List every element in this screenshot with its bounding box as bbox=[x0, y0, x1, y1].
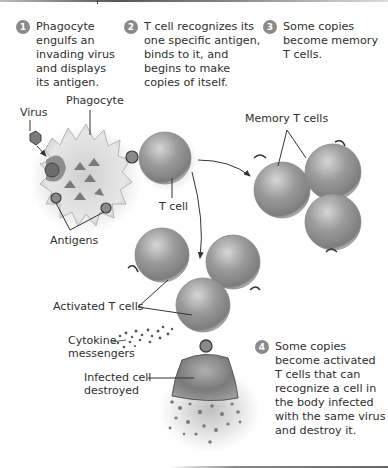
label-cytokine-messengers: Cytokine messengers bbox=[68, 334, 135, 360]
step-text: T cell recognizes its one specific antig… bbox=[144, 20, 260, 90]
step-3: 3 Some copies become memory T cells. bbox=[283, 20, 378, 62]
label-antigens: Antigens bbox=[50, 234, 98, 247]
activated-t-cells bbox=[128, 228, 260, 332]
infected-cell bbox=[160, 354, 260, 452]
label-memory-t-cells: Memory T cells bbox=[245, 112, 328, 125]
step-number-badge: 1 bbox=[16, 20, 30, 34]
step-number-badge: 2 bbox=[124, 20, 138, 34]
step-number-badge: 4 bbox=[255, 340, 269, 354]
step-number-badge: 3 bbox=[263, 20, 277, 34]
step-4: 4 Some copies become activated T cells t… bbox=[275, 340, 385, 438]
label-t-cell: T cell bbox=[159, 200, 188, 213]
label-activated-t-cells: Activated T cells bbox=[53, 300, 143, 313]
step-text: Phagocyte engulfs an invading virus and … bbox=[36, 20, 115, 90]
t-cell bbox=[138, 132, 198, 192]
label-virus: Virus bbox=[20, 106, 48, 119]
label-infected-cell: Infected cell destroyed bbox=[84, 371, 151, 397]
step-1: 1 Phagocyte engulfs an invading virus an… bbox=[36, 20, 115, 90]
step-text: Some copies become memory T cells. bbox=[283, 20, 378, 62]
step-2: 2 T cell recognizes its one specific ant… bbox=[144, 20, 260, 90]
label-phagocyte: Phagocyte bbox=[66, 94, 124, 107]
phagocyte-cell bbox=[30, 124, 142, 234]
memory-t-cells bbox=[254, 141, 361, 252]
step-text: Some copies become activated T cells tha… bbox=[275, 340, 385, 438]
